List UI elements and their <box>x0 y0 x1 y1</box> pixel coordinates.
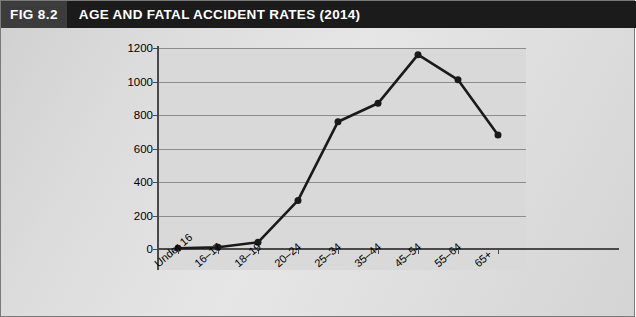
x-tick-label: 45–54 <box>392 240 423 269</box>
figure-number-badge: FIG 8.2 <box>1 1 67 28</box>
chart-plot-area: 020040060080010001200 Under 1616–1718–19… <box>1 28 634 316</box>
figure-title-label: AGE AND FATAL ACCIDENT RATES (2014) <box>79 7 361 22</box>
x-tick-label: 25–34 <box>312 240 343 269</box>
x-tick-label: 18–19 <box>232 240 263 269</box>
figure-number-label: FIG 8.2 <box>10 7 58 22</box>
x-axis-tick-labels: Under 1616–1718–1920–2425–3435–4445–5455… <box>1 28 634 316</box>
x-tick-label: 35–44 <box>352 240 383 269</box>
figure-title-bar: FIG 8.2 AGE AND FATAL ACCIDENT RATES (20… <box>1 1 636 28</box>
x-tick-label: Under 16 <box>152 231 194 269</box>
x-tick-label: 20–24 <box>272 240 303 269</box>
x-tick-label: 55–64 <box>432 240 463 269</box>
x-tick-label: 65+ <box>472 248 494 269</box>
x-tick-label: 16–17 <box>192 240 223 269</box>
x-tick-mark <box>498 250 499 254</box>
